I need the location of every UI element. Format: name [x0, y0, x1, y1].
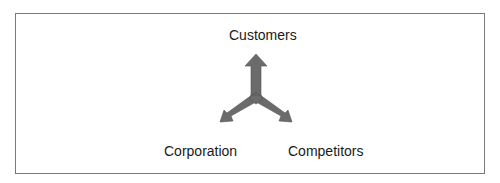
- three-way-arrow-icon: [0, 0, 500, 183]
